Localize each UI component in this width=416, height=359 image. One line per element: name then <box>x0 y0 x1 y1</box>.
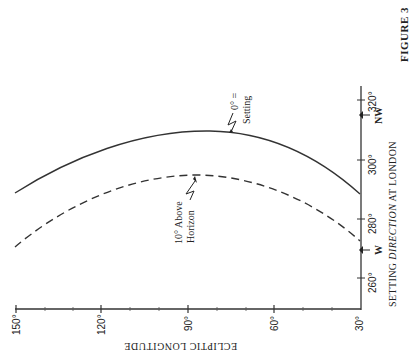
y-tick-label: 260° <box>367 272 378 293</box>
west-marker-label: W <box>373 245 384 255</box>
figure: 150° 120° 90° 60° 30° ECLIPTIC LONGITUDE… <box>0 0 416 359</box>
x-tick-label: 120° <box>96 314 107 335</box>
annotation-horizon-line2: Horizon <box>185 210 196 243</box>
y-axis-title: SETTING DIRECTION AT LONDON <box>387 141 398 307</box>
x-tick-label: 30° <box>354 316 365 331</box>
x-tick-label: 150° <box>11 314 22 335</box>
annotation-setting-line2: Setting <box>241 96 252 124</box>
northwest-marker-label: NW <box>373 107 384 124</box>
annotation-horizon-line1: 10° Above <box>173 201 184 244</box>
x-axis-title: ECLIPTIC LONGITUDE <box>124 341 237 352</box>
y-tick-label: 280° <box>367 213 378 234</box>
y-axis: 260° 280° 300° 320° W NW SETTING DIRECTI… <box>357 86 398 310</box>
chart-svg: 150° 120° 90° 60° 30° ECLIPTIC LONGITUDE… <box>0 0 416 359</box>
x-tick-label: 90° <box>183 316 194 331</box>
y-tick-label: 300° <box>367 154 378 175</box>
annotation-setting: 0° = Setting <box>228 93 252 133</box>
annotation-horizon: 10° Above Horizon <box>173 176 197 244</box>
series-setting-solid-line <box>15 131 360 194</box>
figure-label: FIGURE 3 <box>398 7 410 62</box>
x-axis: 150° 120° 90° 60° 30° ECLIPTIC LONGITUDE <box>11 305 365 352</box>
annotation-setting-line1: 0° = <box>229 93 240 110</box>
x-tick-label: 60° <box>269 316 280 331</box>
